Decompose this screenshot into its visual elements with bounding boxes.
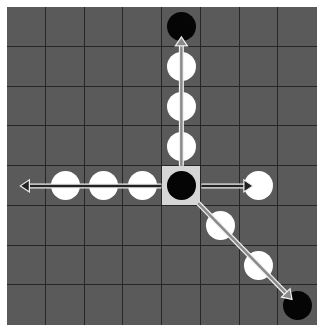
arrow-left-icon [20, 180, 161, 192]
arrow-right-icon [201, 180, 253, 192]
arrow-down-right-icon [198, 203, 292, 299]
move-arrows [7, 7, 317, 325]
arrow-up-icon [175, 37, 187, 166]
game-board [7, 7, 317, 325]
